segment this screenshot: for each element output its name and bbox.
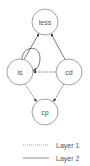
edge-cd-to-less <box>51 34 65 60</box>
node-label-cd: cd <box>65 69 73 76</box>
legend-label-layer-1: Layer 1 <box>56 142 79 150</box>
legend-item-layer-1: Layer 1 <box>23 142 79 150</box>
legend: Layer 1 Layer 2 <box>23 142 79 163</box>
legend-item-layer-2: Layer 2 <box>23 155 79 163</box>
node-label-cp: cp <box>41 109 49 117</box>
node-cd: cd <box>56 59 82 85</box>
node-label-less: less <box>39 19 52 26</box>
edge-cd-to-cp <box>54 84 65 102</box>
node-ls: ls <box>7 59 33 85</box>
node-less: less <box>32 9 58 35</box>
edge-ls-to-less <box>24 34 39 60</box>
node-label-ls: ls <box>17 69 23 76</box>
graph-diagram: less ls cd cp Layer 1 Layer 2 <box>0 0 90 166</box>
node-cp: cp <box>32 99 58 125</box>
legend-label-layer-2: Layer 2 <box>56 155 79 163</box>
edge-ls-to-cp <box>25 84 37 102</box>
